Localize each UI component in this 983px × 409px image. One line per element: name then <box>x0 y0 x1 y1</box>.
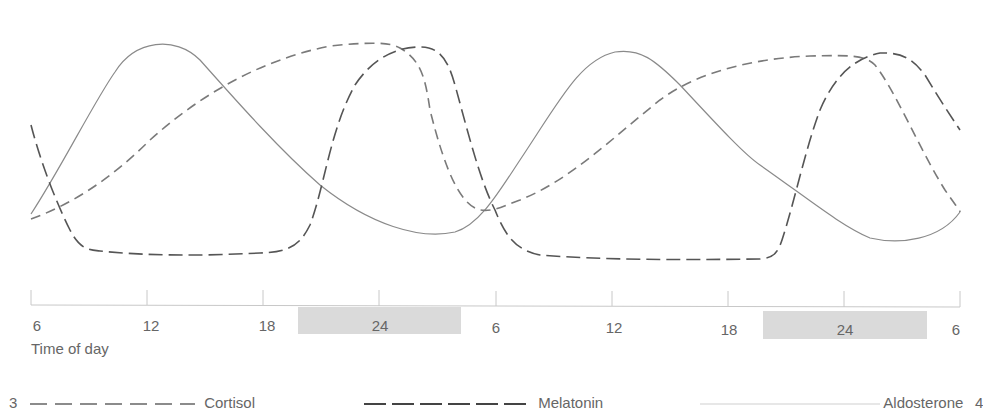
x-tick-label: 24 <box>372 317 389 334</box>
legend-item-cortisol: Cortisol <box>30 394 255 409</box>
legend-item-aldosterone: Aldosterone <box>700 394 963 409</box>
short-dash-swatch-icon <box>30 401 200 407</box>
x-tick-label: 6 <box>492 319 500 336</box>
x-tick-label: 18 <box>721 321 738 338</box>
x-tick-label: 18 <box>259 317 276 334</box>
x-tick-label: 12 <box>143 317 160 334</box>
legend-suffix: 4 <box>975 394 983 409</box>
x-tick-label: 6 <box>952 321 960 338</box>
x-tick-label: 24 <box>837 321 854 338</box>
legend-label: Melatonin <box>538 394 603 409</box>
x-axis-title: Time of day <box>31 340 109 357</box>
x-tick-label: 6 <box>33 317 41 334</box>
x-tick-label: 12 <box>606 319 623 336</box>
long-dash-swatch-icon <box>364 401 534 407</box>
legend-item-melatonin: Melatonin <box>364 394 603 409</box>
legend-label: Cortisol <box>204 394 255 409</box>
legend-label: Aldosterone <box>883 394 963 409</box>
legend-prefix: 3 <box>9 394 17 409</box>
solid-swatch-icon <box>700 401 880 407</box>
